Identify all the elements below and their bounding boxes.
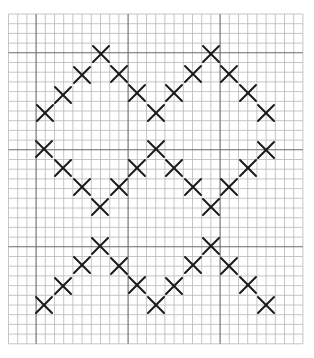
graph-paper-grid	[9, 14, 303, 344]
cross-stitch-chart	[0, 0, 314, 358]
cross-stitch-mark-icon	[55, 87, 71, 103]
cross-stitch-mark-icon	[185, 179, 201, 195]
cross-stitch-mark-icon	[36, 141, 52, 157]
cross-stitch-mark-icon	[93, 46, 109, 62]
cross-stitch-mark-icon	[55, 160, 71, 176]
cross-stitch-mark-icon	[185, 66, 201, 82]
cross-stitch-mark-icon	[185, 257, 201, 273]
cross-stitch-mark-icon	[92, 199, 108, 215]
cross-stitch-mark-icon	[92, 238, 108, 254]
